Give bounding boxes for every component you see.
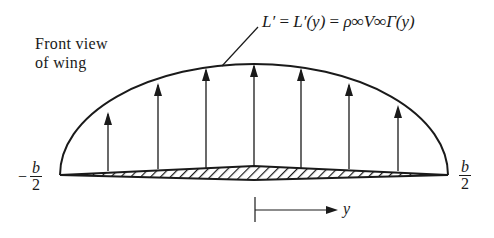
- front-view-line2: of wing: [35, 53, 108, 72]
- equation-eq2: =: [325, 12, 343, 31]
- lift-arrow-icon: [297, 68, 305, 168]
- left-tip-sign: −: [18, 168, 27, 186]
- front-view-line1: Front view: [35, 34, 108, 53]
- left-tip-label: − b 2: [18, 160, 42, 193]
- wing-section: [60, 166, 448, 180]
- right-tip-fraction: b 2: [459, 159, 471, 192]
- left-tip-den: 2: [32, 177, 40, 193]
- lift-arrow-icon: [104, 112, 112, 171]
- front-view-label: Front view of wing: [35, 34, 108, 72]
- lift-arrow-icon: [202, 68, 210, 168]
- y-axis-label: y: [343, 200, 350, 218]
- right-tip-label: b 2: [459, 158, 471, 192]
- lift-equation: L′ = L′(y) = ρ∞V∞Γ(y): [262, 12, 415, 32]
- lift-arrow-icon: [250, 64, 258, 166]
- left-tip-fraction: b 2: [30, 160, 42, 193]
- equation-eq1: =: [275, 12, 293, 31]
- equation-lhs: L′: [262, 12, 275, 31]
- lift-arrow-icon: [394, 105, 402, 171]
- lift-arrow-icon: [154, 83, 162, 169]
- right-tip-num: b: [461, 159, 469, 175]
- leader-line: [222, 27, 258, 66]
- lift-arrow-icon: [345, 83, 353, 169]
- y-axis-indicator: [255, 197, 338, 222]
- left-tip-num: b: [32, 160, 40, 176]
- equation-rhs: ρ∞V∞Γ(y): [343, 12, 414, 31]
- right-tip-den: 2: [461, 176, 469, 192]
- equation-mid: L′(y): [293, 12, 325, 31]
